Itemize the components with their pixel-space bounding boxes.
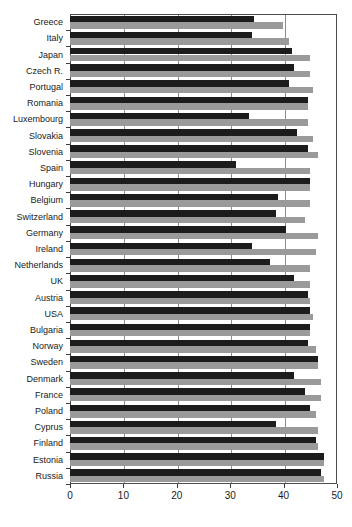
y-tick: [66, 192, 70, 193]
y-tick: [66, 387, 70, 388]
y-tick: [66, 241, 70, 242]
bar-dark: [70, 469, 321, 475]
bar-row: [70, 387, 337, 403]
bar-row: [70, 144, 337, 160]
bar-row: [70, 208, 337, 224]
bar-rows: [70, 14, 337, 484]
bar-light: [70, 314, 313, 320]
bar-row: [70, 435, 337, 451]
bar-light: [70, 379, 321, 385]
bar-dark: [70, 291, 308, 297]
y-tick: [66, 354, 70, 355]
y-tick: [66, 111, 70, 112]
bar-row: [70, 111, 337, 127]
bar-light: [70, 22, 283, 28]
bar-dark: [70, 307, 310, 313]
x-tick-label-30: 30: [225, 490, 236, 501]
category-axis: GreeceItalyJapanCzech R.PortugalRomaniaL…: [0, 14, 67, 484]
bar-row: [70, 371, 337, 387]
y-tick: [66, 452, 70, 453]
bar-dark: [70, 243, 252, 249]
bar-dark: [70, 421, 276, 427]
bar-dark: [70, 80, 289, 86]
x-tick-label-10: 10: [118, 490, 129, 501]
category-label-austria: Austria: [35, 293, 63, 303]
bar-dark: [70, 178, 310, 184]
category-label-norway: Norway: [32, 341, 63, 351]
bar-light: [70, 233, 318, 239]
category-label-czech-r: Czech R.: [26, 66, 63, 76]
y-tick: [66, 403, 70, 404]
bar-light: [70, 281, 310, 287]
category-label-japan: Japan: [38, 50, 63, 60]
bar-dark: [70, 324, 310, 330]
bar-light: [70, 152, 318, 158]
bar-row: [70, 63, 337, 79]
bar-dark: [70, 48, 292, 54]
bar-row: [70, 403, 337, 419]
bar-light: [70, 103, 308, 109]
bar-row: [70, 176, 337, 192]
bar-light: [70, 265, 310, 271]
bar-dark: [70, 113, 249, 119]
y-tick: [66, 176, 70, 177]
bar-light: [70, 395, 321, 401]
bar-row: [70, 273, 337, 289]
y-tick: [66, 435, 70, 436]
bar-light: [70, 476, 324, 482]
x-tick-label-20: 20: [171, 490, 182, 501]
y-tick: [66, 290, 70, 291]
y-tick: [66, 95, 70, 96]
category-label-cyprus: Cyprus: [34, 422, 63, 432]
bar-light: [70, 346, 316, 352]
y-tick: [66, 225, 70, 226]
y-tick: [66, 30, 70, 31]
bar-row: [70, 290, 337, 306]
x-tick-40: [284, 484, 285, 488]
x-tick-20: [177, 484, 178, 488]
category-label-slovakia: Slovakia: [29, 131, 63, 141]
category-label-slovenia: Slovenia: [28, 147, 63, 157]
bar-light: [70, 411, 316, 417]
bar-row: [70, 419, 337, 435]
bar-dark: [70, 275, 294, 281]
bar-row: [70, 160, 337, 176]
y-tick: [66, 273, 70, 274]
category-label-greece: Greece: [33, 17, 63, 27]
bar-dark: [70, 405, 310, 411]
category-label-france: France: [35, 390, 63, 400]
x-tick-label-50: 50: [331, 490, 342, 501]
category-label-uk: UK: [50, 276, 63, 286]
bar-light: [70, 136, 313, 142]
bar-light: [70, 427, 318, 433]
bar-row: [70, 14, 337, 30]
bar-dark: [70, 161, 236, 167]
bar-dark: [70, 64, 294, 70]
bar-dark: [70, 16, 254, 22]
bar-dark: [70, 97, 308, 103]
y-tick: [66, 127, 70, 128]
bar-chart: GreeceItalyJapanCzech R.PortugalRomaniaL…: [0, 0, 352, 527]
bar-row: [70, 306, 337, 322]
y-tick: [66, 257, 70, 258]
bar-row: [70, 354, 337, 370]
bar-dark: [70, 32, 252, 38]
bar-dark: [70, 259, 270, 265]
category-label-portugal: Portugal: [29, 82, 63, 92]
x-tick-label-40: 40: [278, 490, 289, 501]
bar-light: [70, 298, 310, 304]
bar-light: [70, 168, 310, 174]
bar-light: [70, 200, 310, 206]
bar-row: [70, 95, 337, 111]
category-label-hungary: Hungary: [29, 179, 63, 189]
bar-row: [70, 257, 337, 273]
y-tick: [66, 46, 70, 47]
bar-dark: [70, 210, 276, 216]
bar-dark: [70, 194, 278, 200]
category-label-russia: Russia: [35, 471, 63, 481]
bar-light: [70, 330, 310, 336]
category-label-netherlands: Netherlands: [14, 260, 63, 270]
bar-light: [70, 460, 324, 466]
bar-row: [70, 452, 337, 468]
x-tick-30: [230, 484, 231, 488]
